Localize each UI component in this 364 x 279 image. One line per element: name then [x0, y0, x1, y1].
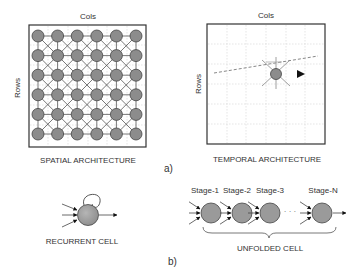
spatial-title: SPATIAL ARCHITECTURE — [40, 156, 136, 165]
stage-2-label: Stage-2 — [223, 186, 251, 195]
spatial-node — [110, 69, 122, 81]
temporal-node — [271, 69, 282, 80]
spatial-node — [52, 128, 64, 140]
temporal-title: TEMPORAL ARCHITECTURE — [213, 155, 321, 164]
unfolded-brace — [203, 227, 336, 238]
temporal-rows-label: Rows — [194, 74, 203, 94]
spatial-node — [91, 128, 103, 140]
spatial-node — [32, 69, 44, 81]
unfolded-cell — [189, 202, 346, 238]
spatial-node — [110, 108, 122, 120]
spatial-node — [91, 30, 103, 42]
spatial-node — [71, 108, 83, 120]
spatial-node — [91, 69, 103, 81]
spatial-cols-label: Cols — [80, 12, 96, 21]
spatial-node — [32, 108, 44, 120]
recurrent-node — [78, 205, 99, 226]
spatial-node — [32, 128, 44, 140]
spatial-node — [52, 108, 64, 120]
stage-ellipsis: · · · — [284, 207, 296, 216]
stage-n-label: Stage-N — [308, 186, 337, 195]
unfolded-title: UNFOLDED CELL — [237, 244, 303, 253]
stage-node-4 — [312, 203, 332, 223]
spatial-node — [32, 50, 44, 62]
spatial-node — [71, 89, 83, 101]
temporal-architecture — [207, 24, 325, 144]
stage-node-1 — [201, 203, 221, 223]
spatial-node — [52, 69, 64, 81]
stage-3-label: Stage-3 — [256, 186, 284, 195]
spatial-node — [130, 69, 142, 81]
spatial-node — [52, 30, 64, 42]
stage-node-3 — [260, 203, 280, 223]
spatial-node — [91, 89, 103, 101]
spatial-architecture — [29, 25, 146, 147]
spatial-node — [91, 50, 103, 62]
spatial-node — [130, 89, 142, 101]
part-b-label: b) — [168, 256, 177, 267]
spatial-rows-label: Rows — [13, 78, 22, 98]
spatial-node — [91, 108, 103, 120]
spatial-node — [130, 108, 142, 120]
recurrent-title: RECURRENT CELL — [46, 237, 118, 246]
spatial-node — [71, 69, 83, 81]
spatial-node — [110, 89, 122, 101]
spatial-node — [71, 128, 83, 140]
spatial-node — [52, 50, 64, 62]
spatial-node — [130, 128, 142, 140]
spatial-node — [110, 30, 122, 42]
spatial-node — [32, 30, 44, 42]
stage-1-label: Stage-1 — [191, 186, 219, 195]
spatial-node — [130, 50, 142, 62]
spatial-node — [52, 89, 64, 101]
part-a-label: a) — [164, 163, 173, 174]
spatial-node — [110, 128, 122, 140]
spatial-node — [71, 50, 83, 62]
spatial-node — [130, 30, 142, 42]
spatial-node — [32, 89, 44, 101]
spatial-node — [71, 30, 83, 42]
recurrent-cell — [62, 194, 117, 227]
spatial-node — [110, 50, 122, 62]
temporal-cols-label: Cols — [258, 11, 274, 20]
